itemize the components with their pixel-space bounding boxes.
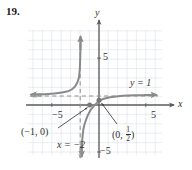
y-intercept-label-prefix: (0, [112, 129, 125, 140]
x-tick-label-5: 5 [151, 110, 156, 120]
fraction-denominator: 2 [126, 135, 131, 143]
vertical-asymptote-label: x = −2 [57, 140, 85, 150]
horizontal-asymptote-label: y = 1 [130, 78, 151, 88]
point-y-intercept [97, 98, 102, 103]
graph-figure [0, 0, 192, 170]
function-curve [34, 42, 154, 153]
x-tick-label-neg5: −5 [52, 110, 63, 120]
y-intercept-label-suffix: ) [131, 129, 134, 140]
exercise-figure-page: 19. [0, 0, 192, 170]
leader-y-intercept [102, 103, 117, 124]
y-tick-label-5: 5 [103, 52, 108, 62]
x-axis-label: x [178, 99, 182, 109]
point-x-intercept [87, 103, 92, 108]
x-intercept-label: (−1, 0) [21, 127, 48, 137]
y-intercept-label: (0, 12) [112, 126, 134, 143]
coordinate-axes [26, 20, 174, 158]
y-axis-label: y [95, 8, 99, 18]
y-intercept-fraction: 12 [126, 126, 131, 143]
y-tick-label-neg5: −5 [100, 146, 111, 156]
